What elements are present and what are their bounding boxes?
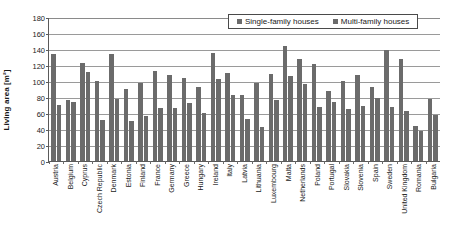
bar — [355, 75, 360, 161]
x-axis-tick-label: Slovenia — [357, 164, 364, 191]
x-axis-tick-label: Estonia — [124, 164, 131, 187]
bar — [51, 54, 56, 161]
x-axis-label-cell: Cyprus — [77, 164, 92, 240]
bar — [332, 102, 337, 161]
x-axis-label-cell: Spain — [367, 164, 382, 240]
x-axis-tick-label: Portugal — [328, 164, 335, 190]
x-axis-tick-label: Malta — [284, 164, 291, 181]
y-axis-tick-label: 80 — [15, 94, 45, 103]
bar — [86, 72, 91, 161]
bar-group — [426, 18, 440, 161]
bar — [370, 87, 375, 161]
bar — [115, 99, 120, 161]
x-axis-tick-label: Romania — [415, 164, 422, 192]
bar — [153, 71, 158, 161]
bar — [80, 63, 85, 161]
living-area-bar-chart: Living area [m²] 02040608010012014016018… — [0, 0, 458, 241]
x-axis-tick-label: Finland — [139, 164, 146, 187]
bar-group — [281, 18, 295, 161]
bar-group — [165, 18, 179, 161]
bar — [375, 98, 380, 161]
x-axis-label-cell: Estonia — [121, 164, 136, 240]
bar — [211, 53, 216, 161]
bar — [225, 73, 230, 161]
x-axis-label-cell: Latvia — [237, 164, 252, 240]
bar-group — [223, 18, 237, 161]
bar — [138, 83, 143, 161]
bar-group — [63, 18, 77, 161]
x-axis-tick-label: Hungary — [197, 164, 204, 190]
x-axis-tick-label: Bulgaria — [429, 164, 436, 190]
x-axis-label-cell: Austria — [48, 164, 63, 240]
bar — [390, 107, 395, 161]
x-axis-label-cell: Ireland — [208, 164, 223, 240]
bar — [419, 131, 424, 161]
x-axis-label-cell: Denmark — [106, 164, 121, 240]
bar — [361, 106, 366, 161]
bar-group — [208, 18, 222, 161]
x-axis-tick-label: United Kingdom — [400, 164, 407, 214]
x-axis-label-cell: Czech Republic — [92, 164, 107, 240]
bar — [269, 74, 274, 161]
y-axis-tick-label: 0 — [15, 158, 45, 167]
bar-group — [179, 18, 193, 161]
bar — [167, 75, 172, 161]
bar — [240, 95, 245, 161]
bar — [202, 113, 207, 161]
bar-group — [339, 18, 353, 161]
legend-swatch-icon — [237, 19, 242, 24]
bar — [57, 105, 62, 161]
x-axis-tick-label: Netherlands — [299, 164, 306, 202]
y-axis-tick-label: 40 — [15, 126, 45, 135]
bar-group — [411, 18, 425, 161]
y-axis-tick-label: 140 — [15, 46, 45, 55]
bar-group — [49, 18, 63, 161]
bar — [317, 107, 322, 161]
bar — [260, 127, 265, 161]
bar-group — [121, 18, 135, 161]
x-axis-tick-label: Austria — [52, 164, 59, 186]
x-axis-tick-label: Poland — [313, 164, 320, 186]
x-axis-tick-label: Ireland — [211, 164, 218, 185]
bar-group — [353, 18, 367, 161]
bar — [100, 120, 105, 161]
x-axis-label-cell: Germany — [164, 164, 179, 240]
bar — [433, 115, 438, 161]
x-axis-tick-label: Cyprus — [81, 164, 88, 186]
x-axis-tick-label: Greece — [182, 164, 189, 187]
bar — [288, 76, 293, 161]
legend-swatch-icon — [333, 19, 338, 24]
bar — [404, 111, 409, 161]
bar-group — [368, 18, 382, 161]
bar — [196, 87, 201, 161]
x-axis-tick-label: Germany — [168, 164, 175, 193]
chart-legend: Single-family houses Multi-family houses — [228, 14, 418, 29]
bar — [144, 116, 149, 161]
bar — [71, 102, 76, 161]
bar — [231, 95, 236, 161]
x-axis-label-cell: Malta — [280, 164, 295, 240]
bar-group — [107, 18, 121, 161]
bar — [216, 79, 221, 161]
x-axis-label-cell: Bulgaria — [425, 164, 440, 240]
x-axis-tick-label: Italy — [226, 164, 233, 177]
x-axis-tick-label: Spain — [371, 164, 378, 182]
legend-label: Single-family houses — [245, 17, 319, 26]
bar — [283, 46, 288, 161]
legend-label: Multi-family houses — [341, 17, 409, 26]
bar — [428, 99, 433, 161]
x-axis-tick-label: Luxembourg — [269, 164, 276, 203]
x-axis-label-cell: Luxembourg — [266, 164, 281, 240]
bar-group — [252, 18, 266, 161]
y-axis-title: Living area [m²] — [2, 0, 14, 40]
bar — [384, 50, 389, 161]
x-axis-label-cell: Poland — [309, 164, 324, 240]
bar-group — [266, 18, 280, 161]
bar-series-container — [49, 18, 440, 161]
bar — [413, 126, 418, 161]
bar-group — [310, 18, 324, 161]
bar-group — [92, 18, 106, 161]
bar — [399, 59, 404, 161]
bar-group — [136, 18, 150, 161]
plot-area: 020406080100120140160180 — [48, 18, 440, 162]
